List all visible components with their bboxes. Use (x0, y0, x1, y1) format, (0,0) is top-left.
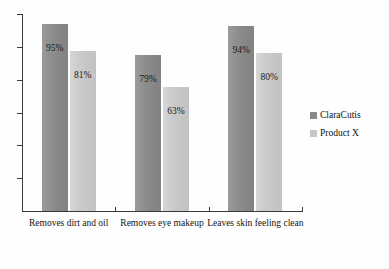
plot-area: 95%81%79%63%94%80% (22, 14, 302, 211)
chart-legend: ClaraCutis Product X (310, 111, 361, 146)
category-label-2: Leaves skin feeling clean (207, 218, 304, 230)
legend-item-product-x[interactable]: Product X (310, 129, 361, 139)
bar-value-label: 79% (135, 75, 161, 85)
category-label-0: Removes dirt and oil (20, 218, 117, 230)
bar-claracutis-1[interactable]: 79% (135, 55, 161, 211)
legend-item-label: Product X (320, 129, 359, 139)
bar-value-label: 94% (228, 46, 254, 56)
legend-item-claracutis[interactable]: ClaraCutis (310, 111, 361, 121)
category-label-1: Removes eye makeup (113, 218, 210, 230)
bar-value-label: 95% (42, 44, 68, 54)
legend-item-label: ClaraCutis (320, 111, 361, 121)
bar-claracutis-2[interactable]: 94% (228, 26, 254, 211)
bar-value-label: 63% (163, 107, 189, 117)
x-axis-tick (302, 207, 303, 212)
x-axis-line (22, 211, 303, 212)
bar-product-x-0[interactable]: 81% (70, 51, 96, 211)
bar-value-label: 81% (70, 71, 96, 81)
bar-product-x-2[interactable]: 80% (256, 53, 282, 211)
bar-chart: 95%81%79%63%94%80% Removes dirt and oilR… (0, 0, 389, 269)
legend-swatch-icon (310, 112, 317, 119)
bar-value-label: 80% (256, 73, 282, 83)
bar-claracutis-0[interactable]: 95% (42, 24, 68, 211)
legend-swatch-icon (310, 130, 317, 137)
bar-product-x-1[interactable]: 63% (163, 87, 189, 211)
